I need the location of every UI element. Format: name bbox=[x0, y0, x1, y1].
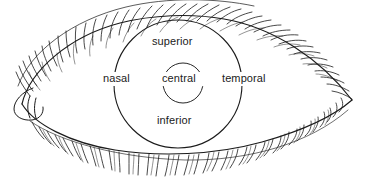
eye-zones-figure: superior nasal central temporal inferior bbox=[0, 0, 372, 183]
caruncle-inner-fold bbox=[28, 96, 30, 118]
label-temporal: temporal bbox=[222, 73, 266, 84]
label-superior: superior bbox=[152, 36, 193, 47]
eye-diagram-svg bbox=[0, 0, 372, 183]
lower-lash-row bbox=[32, 98, 343, 176]
caruncle-crease bbox=[35, 98, 37, 118]
label-nasal: nasal bbox=[103, 73, 130, 84]
label-inferior: inferior bbox=[157, 115, 191, 126]
lower-eyelid-margin bbox=[22, 100, 352, 154]
label-central: central bbox=[162, 73, 196, 84]
